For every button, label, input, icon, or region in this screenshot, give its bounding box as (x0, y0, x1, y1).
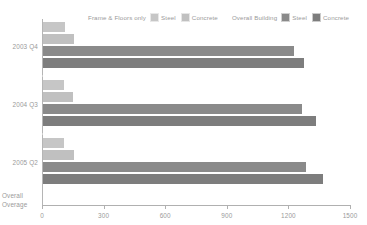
bar-frame-concrete (43, 34, 74, 44)
group-separator (42, 75, 43, 77)
x-tick (42, 205, 43, 209)
overall-overage-line1: Overall (2, 192, 40, 201)
y-axis-label-2005-q2: 2005 Q2 (2, 159, 38, 166)
bar-frame-steel (43, 138, 64, 148)
y-axis-label-2004-q3: 2004 Q3 (2, 101, 38, 108)
x-tick-label: 1200 (281, 212, 296, 219)
y-axis-label-2003-q4: 2003 Q4 (2, 43, 38, 50)
bar-chart: Frame & Floors only Steel Concrete Overa… (0, 0, 367, 225)
x-tick (288, 205, 289, 209)
group-separator (42, 133, 43, 135)
overall-overage-line2: Overage (2, 201, 40, 210)
plot-area: 030060090012001500 (42, 19, 350, 205)
x-tick (165, 205, 166, 209)
bar-building-concrete (43, 58, 304, 68)
bar-building-steel (43, 46, 294, 56)
x-tick (350, 205, 351, 209)
bar-building-concrete (43, 116, 316, 126)
bar-frame-steel (43, 22, 65, 32)
x-tick-label: 1500 (343, 212, 358, 219)
x-axis-line (42, 205, 350, 206)
x-tick-label: 900 (221, 212, 232, 219)
bar-building-concrete (43, 174, 323, 184)
bar-building-steel (43, 162, 306, 172)
bar-frame-concrete (43, 92, 73, 102)
x-tick (104, 205, 105, 209)
bar-frame-concrete (43, 150, 74, 160)
bar-frame-steel (43, 80, 64, 90)
x-tick-label: 600 (160, 212, 171, 219)
bar-building-steel (43, 104, 302, 114)
overall-overage-label: Overall Overage (2, 192, 40, 209)
x-tick-label: 0 (40, 212, 44, 219)
x-tick-label: 300 (98, 212, 109, 219)
x-tick (227, 205, 228, 209)
